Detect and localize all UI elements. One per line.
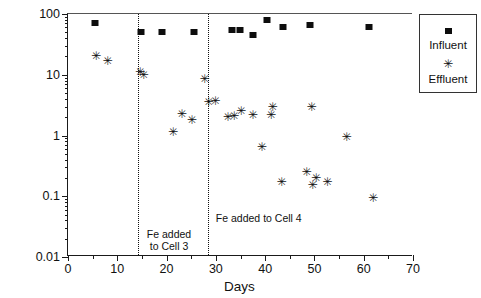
data-point-effluent [368,193,377,202]
y-tick-minor [65,210,69,211]
data-point-influent [158,29,165,35]
y-tick-label: 0.01 [36,250,60,264]
y-tick-minor [65,46,69,47]
data-point-influent [249,32,256,38]
data-point-effluent [200,74,209,83]
x-tick-major [117,255,118,261]
y-tick-minor [65,93,69,94]
y-tick-major [62,136,68,137]
data-point-influent [365,24,372,30]
data-point-influent [236,27,243,33]
y-tick-minor [65,178,69,179]
data-point-effluent [236,107,245,116]
y-tick-minor [65,138,69,139]
y-tick-minor [65,220,69,221]
data-point-effluent [102,56,111,65]
x-tick-label: 0 [65,262,72,276]
data-point-effluent [276,178,285,187]
x-tick-label: 60 [357,262,371,276]
x-tick-major [167,255,168,261]
y-tick-major [62,14,68,15]
data-point-influent [307,22,314,28]
y-tick-minor [65,228,69,229]
x-tick-major [314,255,315,261]
y-tick-minor [65,141,69,142]
x-tick-major [364,255,365,261]
x-tick-major [413,255,414,261]
data-point-influent [228,27,235,33]
data-point-influent [137,29,144,35]
x-tick-label: 10 [110,262,124,276]
chart-figure: Arsenic (mg/L) Days 0.010.1110100 010203… [0,0,481,298]
y-tick-minor [65,99,69,100]
data-point-effluent [168,127,177,136]
legend-entry-effluent: ✳ Effluent [422,54,474,85]
x-tick-minor [241,255,242,259]
y-tick-label: 10 [46,68,60,82]
x-tick-label: 20 [160,262,174,276]
y-tick-minor [65,160,69,161]
data-point-influent [190,29,197,35]
y-tick-minor [65,199,69,200]
data-point-effluent [306,102,315,111]
x-tick-major [68,255,69,261]
chart-legend: Influent ✳ Effluent [419,14,477,93]
data-point-effluent [248,110,257,119]
data-point-effluent [322,178,331,187]
y-tick-minor [65,78,69,79]
data-point-effluent [138,70,147,79]
y-tick-minor [65,81,69,82]
data-point-effluent [210,96,219,105]
plot-area: 0.010.1110100 010203040506070 Fe added t… [67,13,412,256]
legend-label-effluent: Effluent [422,73,474,85]
data-point-effluent [91,52,100,61]
x-tick-label: 70 [406,262,420,276]
event-line-fe-cell-3 [138,14,139,255]
y-tick-major [62,75,68,76]
data-point-influent [92,20,99,26]
y-tick-major [62,196,68,197]
asterisk-icon: ✳ [443,60,453,69]
data-point-effluent [268,102,277,111]
y-tick-minor [65,239,69,240]
y-tick-minor [65,84,69,85]
x-tick-major [265,255,266,261]
x-tick-label: 40 [258,262,272,276]
y-tick-minor [65,215,69,216]
legend-entry-influent: Influent [422,20,474,51]
y-tick-minor [65,149,69,150]
data-point-effluent [177,109,186,118]
x-tick-minor [388,255,389,259]
y-tick-minor [65,17,69,18]
x-tick-minor [142,255,143,259]
x-tick-minor [93,255,94,259]
y-tick-label: 100 [39,7,60,21]
filled-square-icon [445,28,452,34]
x-tick-label: 30 [209,262,223,276]
y-tick-minor [65,32,69,33]
x-tick-minor [191,255,192,259]
y-tick-minor [65,107,69,108]
y-tick-label: 0.1 [43,189,60,203]
data-point-effluent [257,142,266,151]
y-tick-minor [65,88,69,89]
y-tick-minor [65,202,69,203]
y-tick-minor [65,154,69,155]
y-tick-minor [65,20,69,21]
data-point-effluent [302,168,311,177]
event-label-fe-cell-4: Fe added to Cell 4 [216,212,302,224]
y-tick-minor [65,56,69,57]
y-tick-minor [65,117,69,118]
data-point-effluent [187,115,196,124]
data-point-effluent [311,173,320,182]
x-tick-label: 50 [307,262,321,276]
y-tick-minor [65,38,69,39]
event-line-fe-cell-4 [208,14,209,255]
x-axis-title: Days [67,279,412,294]
y-tick-label: 1 [53,129,60,143]
data-point-influent [279,24,286,30]
x-tick-minor [339,255,340,259]
x-tick-major [216,255,217,261]
y-tick-minor [65,23,69,24]
data-point-effluent [341,132,350,141]
